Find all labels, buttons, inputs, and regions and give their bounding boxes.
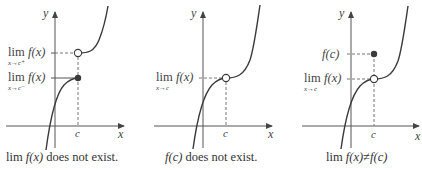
panel-2-graph: y x c lim f(x) x→c: [154, 5, 274, 149]
panel-1-graph: y x c lim f(x) x→c⁺ lim f(x) x→c⁻: [6, 6, 124, 150]
panel-3-graph: y x c f(c) lim f(x) x→c: [302, 6, 421, 149]
open-circle: [222, 74, 229, 81]
caption-neq: ≠: [363, 150, 370, 164]
c-tick-label: c: [371, 128, 376, 140]
label-lim: lim: [156, 70, 173, 84]
x-axis-label: x: [414, 129, 421, 143]
caption-func2: f(c): [370, 150, 387, 164]
caption-lim: lim: [326, 150, 343, 164]
label-lim-left: lim: [8, 70, 25, 84]
label-sub: x→c: [303, 85, 318, 93]
label-lim-right: lim: [8, 45, 25, 59]
caption-lim: lim: [6, 150, 23, 164]
open-circle: [74, 49, 81, 56]
filled-dot: [371, 51, 377, 57]
y-axis-label: y: [338, 6, 345, 20]
caption-func: f(c): [165, 150, 182, 164]
label-lim: lim: [304, 71, 321, 85]
label-fc: f(c): [322, 47, 339, 61]
caption-panel-3: lim f(x)≠f(c): [326, 150, 387, 165]
x-axis-label: x: [117, 127, 124, 141]
c-tick-label: c: [223, 127, 228, 139]
open-circle: [370, 75, 377, 82]
caption-panel-1: lim f(x) does not exist.: [6, 150, 118, 165]
curve-right-branch: [78, 6, 108, 53]
curve-left-branch: [46, 78, 78, 150]
label-sub-right: x→c⁺: [7, 59, 25, 67]
caption-func: f(x): [26, 150, 43, 164]
caption-func: f(x): [346, 150, 363, 164]
diagram-canvas: y x c lim f(x) x→c⁺ lim f(x) x→c⁻ y x c …: [0, 0, 422, 170]
y-axis-label: y: [42, 6, 49, 20]
caption-rest: does not exist.: [182, 150, 257, 164]
label-func-right: f(x): [28, 45, 45, 59]
label-sub: x→c: [155, 84, 170, 92]
caption-panel-2: f(c) does not exist.: [165, 150, 257, 165]
caption-rest: does not exist.: [43, 150, 118, 164]
filled-dot: [75, 75, 81, 81]
label-sub-left: x→c⁻: [7, 84, 25, 92]
label-func: f(x): [324, 71, 341, 85]
label-func-left: f(x): [28, 70, 45, 84]
label-func: f(x): [176, 70, 193, 84]
x-axis-label: x: [267, 127, 274, 141]
c-tick-label: c: [75, 127, 80, 139]
y-axis-label: y: [190, 6, 197, 20]
